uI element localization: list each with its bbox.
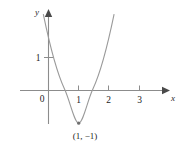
y-axis-arrow-icon [45, 9, 52, 17]
vertex-coordinate-label: (1, −1) [73, 131, 98, 141]
y-axis-label: y [34, 7, 39, 17]
x-axis-arrow-icon [162, 87, 170, 94]
graph-figure: y x 0 1 1 2 3 (1, −1) [0, 0, 183, 151]
x-axis-label: x [170, 93, 175, 103]
parabola-plot: y x 0 1 1 2 3 (1, −1) [0, 0, 183, 151]
x-axis [20, 86, 170, 95]
y-tick-label-1: 1 [36, 53, 41, 63]
origin-label: 0 [40, 94, 45, 104]
parabola-curve [43, 14, 114, 123]
x-tick-label-3: 3 [137, 95, 142, 105]
x-tick-label-2: 2 [106, 95, 111, 105]
vertex-point-marker [77, 122, 80, 125]
x-tick-label-1: 1 [76, 95, 81, 105]
